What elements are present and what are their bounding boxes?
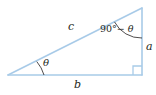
hypotenuse-label: c [68,21,74,32]
right-angle-marker-icon [133,66,142,75]
vertical-leg-label: a [146,41,153,52]
apex-angle-value: 90 [100,23,112,34]
right-triangle-figure: c a b θ 90°− θ [0,0,156,95]
apex-angle-remainder: − θ [117,23,134,34]
apex-angle-label: 90°− θ [100,24,134,34]
horizontal-leg-label: b [74,79,81,90]
base-angle-label: θ [43,58,49,68]
hypotenuse-line [8,8,142,75]
